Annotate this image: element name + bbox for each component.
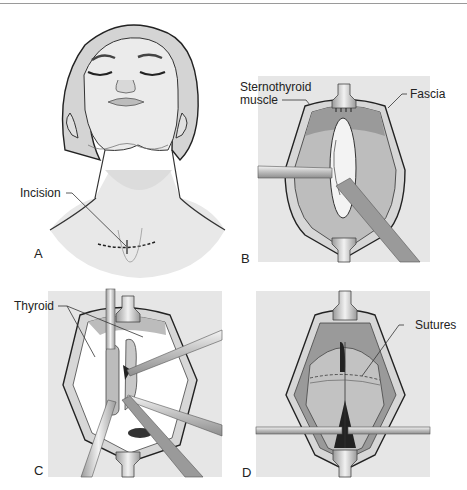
panel-label-a: A bbox=[34, 246, 43, 261]
panel-b bbox=[258, 76, 430, 262]
panel-d bbox=[256, 291, 430, 477]
label-sutures: Sutures bbox=[415, 319, 456, 332]
panel-a bbox=[50, 25, 225, 278]
label-sternothyroid-muscle-line2: muscle bbox=[240, 94, 278, 107]
panel-c bbox=[48, 289, 222, 477]
label-incision: Incision bbox=[20, 187, 61, 200]
label-thyroid: Thyroid bbox=[14, 300, 54, 313]
panel-label-b: B bbox=[241, 251, 250, 266]
panel-label-c: C bbox=[34, 463, 43, 478]
surgical-illustration bbox=[0, 0, 467, 490]
panel-label-d: D bbox=[242, 465, 251, 480]
label-fascia: Fascia bbox=[410, 88, 445, 101]
